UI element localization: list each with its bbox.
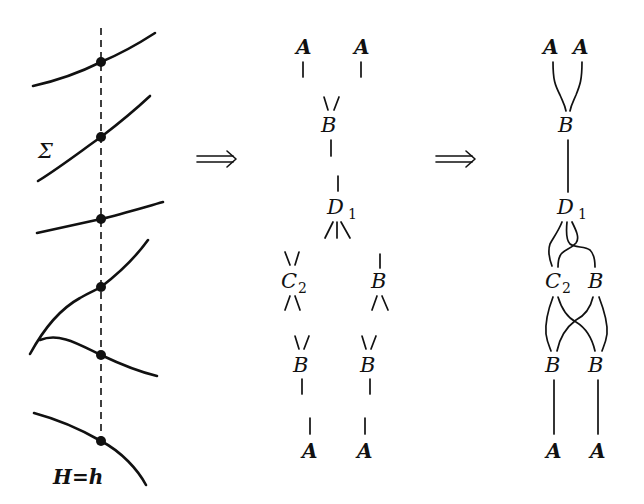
node-B4: B [587, 353, 603, 377]
node-D1-subscript: 1 [348, 206, 357, 222]
node-B4: B [359, 353, 375, 377]
edge-B2-B4-right [599, 297, 607, 351]
implies-arrow-1 [197, 151, 236, 167]
left-panel-surface-slices: Σ H=h [30, 28, 163, 489]
node-A4: A [355, 439, 373, 463]
node-B3: B [544, 353, 560, 377]
edge-C2-B3-left [546, 297, 553, 351]
node-C2-subscript: 2 [562, 280, 571, 296]
node-A3: A [300, 439, 318, 463]
node-D1: D [556, 195, 574, 219]
edge-D1-C2-right [558, 222, 578, 267]
edge-A2-B1 [570, 62, 582, 111]
node-A2: A [571, 35, 589, 59]
slice-curve-1 [33, 33, 155, 86]
implies-arrow-2 [436, 151, 475, 167]
edge-D1-B2 [566, 222, 595, 267]
node-B1: B [320, 113, 336, 137]
edge-D1-C2-left [549, 222, 562, 266]
node-A4: A [588, 439, 606, 463]
edge-A1-B1 [553, 62, 566, 111]
node-C2-subscript: 2 [298, 280, 307, 296]
node-A1: A [294, 35, 312, 59]
intersection-point-5 [96, 350, 106, 360]
slice-curve-2 [38, 96, 150, 181]
intersection-point-6 [96, 436, 106, 446]
node-A3: A [544, 439, 562, 463]
intersection-point-2 [96, 132, 106, 142]
intersection-point-3 [96, 214, 106, 224]
node-C2: C [545, 269, 561, 293]
node-B3: B [292, 353, 308, 377]
node-A1: A [541, 35, 559, 59]
edge-B2-B3 [557, 297, 593, 351]
intersection-point-4 [96, 282, 106, 292]
diagram-canvas: Σ H=h A A B D 1 C 2 B [0, 0, 644, 504]
node-D1-subscript: 1 [578, 206, 587, 222]
intersection-point-1 [96, 57, 106, 67]
node-A2: A [352, 35, 370, 59]
sigma-label: Σ [37, 139, 53, 163]
node-B2: B [370, 269, 386, 293]
level-set-label: H=h [52, 465, 103, 489]
node-D1: D [326, 195, 344, 219]
node-B1: B [557, 113, 573, 137]
node-C2: C [281, 269, 297, 293]
right-panel-glued-graph: A A B D 1 C 2 B B B A A [541, 35, 607, 463]
middle-panel-local-pieces: A A B D 1 C 2 B B B A A [281, 35, 388, 463]
node-B2: B [587, 269, 603, 293]
